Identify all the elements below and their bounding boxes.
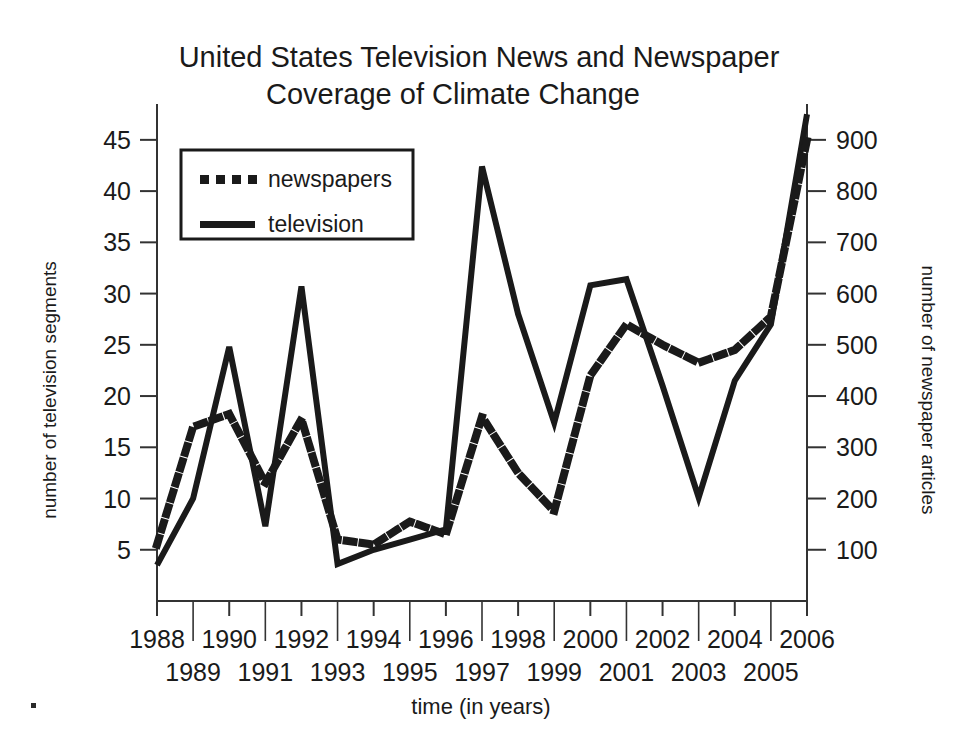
right-tick-label: 900 [836, 126, 878, 154]
right-tick-label: 400 [836, 382, 878, 410]
left-tick-label: 20 [103, 382, 131, 410]
x-tick-label-upper: 1992 [274, 625, 330, 653]
right-tick-label: 600 [836, 280, 878, 308]
x-tick-label-upper: 1988 [129, 625, 185, 653]
legend-dot [232, 175, 241, 184]
chart-canvas: United States Television News and Newspa… [0, 0, 959, 740]
left-tick-label: 10 [103, 485, 131, 513]
x-tick-label-lower: 1991 [238, 658, 294, 686]
right-axis-ticks: 100200300400500600700800900 [807, 126, 878, 564]
x-tick-label-lower: 1997 [454, 658, 510, 686]
x-tick-label-upper: 2004 [707, 625, 763, 653]
right-tick-label: 800 [836, 177, 878, 205]
scan-artifact-speck [31, 703, 36, 708]
x-tick-label-upper: 1994 [346, 625, 402, 653]
left-axis-label: number of television segments [39, 261, 60, 519]
left-axis-ticks: 51015202530354045 [103, 126, 157, 564]
right-tick-label: 700 [836, 228, 878, 256]
x-tick-label-lower: 2005 [743, 658, 799, 686]
legend-dot [216, 175, 225, 184]
legend-swatch-television [200, 221, 255, 228]
right-tick-label: 500 [836, 331, 878, 359]
legend: newspapers television [181, 150, 413, 239]
x-tick-label-lower: 1999 [526, 658, 582, 686]
x-tick-label-lower: 1993 [310, 658, 366, 686]
left-tick-label: 25 [103, 331, 131, 359]
x-tick-label-upper: 1996 [418, 625, 474, 653]
right-tick-label: 200 [836, 485, 878, 513]
x-tick-label-upper: 2002 [635, 625, 691, 653]
x-tick-label-lower: 1989 [165, 658, 221, 686]
x-tick-label-lower: 1995 [382, 658, 438, 686]
chart-figure: United States Television News and Newspa… [0, 0, 959, 740]
left-tick-label: 40 [103, 177, 131, 205]
legend-dot [248, 175, 257, 184]
x-axis-label: time (in years) [411, 694, 550, 719]
chart-title-line-2: Coverage of Climate Change [266, 78, 640, 110]
right-tick-label: 100 [836, 536, 878, 564]
x-tick-label-upper: 1998 [490, 625, 546, 653]
legend-dot [200, 175, 209, 184]
legend-label-newspapers: newspapers [268, 166, 392, 192]
left-tick-label: 45 [103, 126, 131, 154]
x-tick-label-upper: 2000 [563, 625, 619, 653]
left-tick-label: 30 [103, 280, 131, 308]
left-tick-label: 35 [103, 228, 131, 256]
legend-label-television: television [268, 211, 364, 237]
x-tick-label-lower: 2003 [671, 658, 727, 686]
right-tick-label: 300 [836, 433, 878, 461]
bottom-axis-ticks: 1988199019921994199619982000200220042006… [129, 601, 835, 686]
left-tick-label: 15 [103, 433, 131, 461]
chart-title-line-1: United States Television News and Newspa… [179, 41, 780, 73]
x-tick-label-upper: 1990 [201, 625, 257, 653]
left-tick-label: 5 [117, 536, 131, 564]
x-tick-label-upper: 2006 [779, 625, 835, 653]
right-axis-label: number of newspaper articles [918, 265, 939, 514]
x-tick-label-lower: 2001 [599, 658, 655, 686]
